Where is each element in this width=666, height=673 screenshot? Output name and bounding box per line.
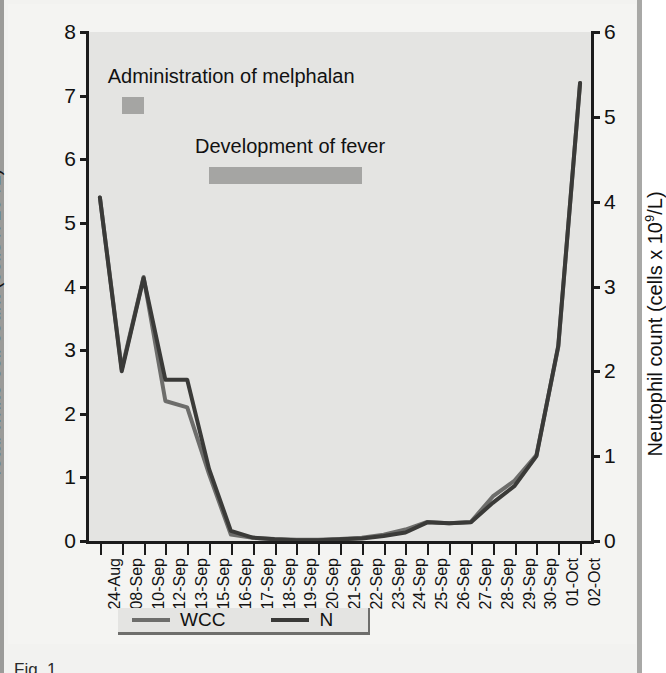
x-axis-tick: [493, 543, 495, 555]
x-axis-tick: [427, 543, 429, 555]
y-axis-left-tick: [80, 286, 89, 289]
x-axis-tick: [362, 543, 364, 555]
x-axis-tick-label: 02-Oct: [586, 558, 604, 606]
x-axis-tick-label: 15-Sep: [215, 558, 233, 610]
y-axis-right-tick: [591, 116, 600, 119]
x-axis-tick: [318, 543, 320, 555]
x-axis-tick: [558, 543, 560, 555]
x-axis-tick: [515, 543, 517, 555]
y-axis-left-tick: [80, 413, 89, 416]
legend-label-n: N: [319, 609, 333, 631]
y-axis-left-tick-label: 8: [64, 21, 76, 42]
x-axis-tick: [449, 543, 451, 555]
y-axis-left-tick-label: 5: [64, 212, 76, 233]
x-axis-tick-label: 01-Oct: [564, 558, 582, 606]
x-axis-tick-label: 24-Sep: [411, 558, 429, 610]
y-axis-left-tick-label: 3: [64, 339, 76, 360]
x-axis-tick-label: 28-Sep: [499, 558, 517, 610]
y-axis-right-title-text: Neutophil count (cells x 109/L): [643, 191, 665, 456]
y-axis-left-tick: [80, 222, 89, 225]
y-axis-left-tick: [80, 349, 89, 352]
x-axis-tick-label: 08-Sep: [128, 558, 146, 610]
x-axis-tick-label: 30-Sep: [542, 558, 560, 610]
x-axis-tick: [209, 543, 211, 555]
x-axis-tick: [231, 543, 233, 555]
y-axis-right-tick: [591, 31, 600, 34]
series-line-n: [100, 83, 580, 540]
figure-container: Total white cell count (cells x 109/L) N…: [8, 4, 636, 644]
x-axis-tick-label: 13-Sep: [193, 558, 211, 610]
plot-area: 012345678 0123456 Administration of melp…: [86, 32, 594, 541]
x-axis-tick: [405, 543, 407, 555]
x-axis-tick: [580, 543, 582, 555]
x-axis-tick-label: 17-Sep: [259, 558, 277, 610]
y-axis-right-tick-label: 0: [604, 530, 616, 551]
y-axis-right-tick-label: 1: [604, 445, 616, 466]
x-axis-tick-label: 12-Sep: [171, 558, 189, 610]
x-axis-tick-label: 21-Sep: [346, 558, 364, 610]
x-axis-tick-label: 26-Sep: [455, 558, 473, 610]
x-axis-tick: [253, 543, 255, 555]
x-axis-tick-label: 16-Sep: [237, 558, 255, 610]
x-axis-tick: [187, 543, 189, 555]
x-axis-tick-label: 18-Sep: [281, 558, 299, 610]
legend-label-wcc: WCC: [180, 609, 225, 631]
x-axis-tick: [296, 543, 298, 555]
legend-swatch-wcc: [132, 618, 170, 622]
x-axis-tick-label: 29-Sep: [521, 558, 539, 610]
y-axis-left-tick-label: 1: [64, 466, 76, 487]
series-lines: [89, 32, 591, 541]
y-axis-right-tick-label: 5: [604, 106, 616, 127]
legend-swatch-n: [271, 618, 309, 622]
series-line-wcc: [100, 83, 580, 540]
y-axis-left-tick: [80, 476, 89, 479]
x-axis: 24-Aug08-Sep10-Sep12-Sep13-Sep15-Sep16-S…: [86, 541, 594, 542]
figure-caption: Fig. 1: [14, 660, 624, 673]
y-axis-left-tick-label: 4: [64, 276, 76, 297]
y-axis-left-tick-label: 2: [64, 403, 76, 424]
x-axis-tick: [471, 543, 473, 555]
x-axis-tick: [122, 543, 124, 555]
x-axis-tick: [536, 543, 538, 555]
y-axis-right-tick-label: 4: [604, 191, 616, 212]
y-axis-right-title: Neutophil count (cells x 109/L): [642, 191, 666, 456]
x-axis-tick-label: 24-Aug: [106, 558, 124, 610]
y-axis-left-tick-label: 0: [64, 530, 76, 551]
x-axis-tick-label: 10-Sep: [150, 558, 168, 610]
legend-item-wcc: WCC: [132, 608, 225, 632]
x-axis-tick: [275, 543, 277, 555]
x-axis-tick: [100, 543, 102, 555]
y-axis-right-tick-label: 2: [604, 360, 616, 381]
x-axis-tick-label: 22-Sep: [368, 558, 386, 610]
x-axis-tick: [340, 543, 342, 555]
y-axis-left-title-text: Total white cell count (cells x 109/L): [0, 169, 3, 480]
x-axis-tick-label: 27-Sep: [477, 558, 495, 610]
y-axis-left-tick-label: 7: [64, 85, 76, 106]
chart-legend: WCC N: [118, 608, 370, 635]
y-axis-left-tick: [80, 158, 89, 161]
y-axis-left-title: Total white cell count (cells x 109/L): [0, 169, 4, 480]
x-axis-tick-label: 23-Sep: [390, 558, 408, 610]
y-axis-left-tick: [80, 95, 89, 98]
x-axis-tick-label: 25-Sep: [433, 558, 451, 610]
x-axis-tick-label: 19-Sep: [302, 558, 320, 610]
y-axis-right-tick: [591, 455, 600, 458]
legend-item-n: N: [271, 608, 333, 632]
x-axis-tick: [384, 543, 386, 555]
x-axis-tick: [165, 543, 167, 555]
y-axis-right-tick-label: 6: [604, 21, 616, 42]
y-axis-right-tick: [591, 370, 600, 373]
x-axis-tick: [144, 543, 146, 555]
y-axis-left-tick-label: 6: [64, 148, 76, 169]
x-axis-tick-label: 20-Sep: [324, 558, 342, 610]
y-axis-right-tick: [591, 286, 600, 289]
y-axis-left-tick: [80, 31, 89, 34]
y-axis-right-tick-label: 3: [604, 276, 616, 297]
y-axis-right-tick: [591, 201, 600, 204]
